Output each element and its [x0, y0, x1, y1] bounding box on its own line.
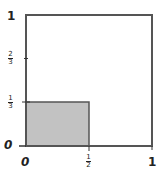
y-label-two-thirds: 2 3 [8, 51, 13, 66]
y-label-one-third-num: 1 [8, 95, 12, 102]
y-label-one: 1 [7, 9, 15, 23]
y-label-two-thirds-den: 3 [8, 59, 12, 66]
unit-square-diagram [0, 0, 164, 177]
y-label-one-third: 1 3 [8, 95, 13, 110]
x-label-one-half-den: 2 [86, 162, 90, 169]
x-label-one-half-num: 1 [86, 154, 90, 161]
y-label-one-third-den: 3 [8, 103, 12, 110]
x-label-zero: 0 [21, 155, 29, 169]
x-label-one-half: 1 2 [86, 154, 91, 169]
y-label-two-thirds-num: 2 [8, 51, 12, 58]
x-label-one: 1 [148, 155, 156, 169]
y-label-zero: 0 [4, 138, 12, 152]
shaded-region [26, 102, 89, 146]
